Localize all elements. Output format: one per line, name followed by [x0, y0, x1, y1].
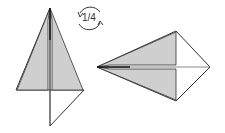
kite-vertical-figure: [16, 8, 84, 126]
diagram-canvas: [0, 0, 225, 133]
kite-rotated-figure: [97, 31, 210, 101]
origami-diagram: 1/4: [0, 0, 225, 133]
rotation-label: 1/4: [82, 12, 96, 23]
